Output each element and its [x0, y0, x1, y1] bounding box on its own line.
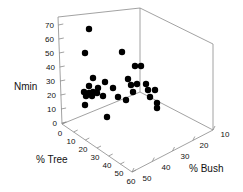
nmin-tick-60 [59, 38, 64, 39]
frame-edge-nmin-axis [58, 17, 62, 124]
tree-ticklabel-30: 30 [91, 153, 100, 162]
data-point [104, 114, 110, 120]
data-points-layer [81, 26, 160, 120]
data-point [86, 26, 92, 32]
tree-tick-30 [97, 146, 101, 148]
nmin-ticklabel-70: 70 [45, 21, 54, 30]
bush-ticklabel-10: 10 [221, 130, 230, 139]
data-point [147, 94, 153, 100]
data-point [82, 50, 88, 56]
plot-canvas: 70 60 50 40 30 20 10 0 Nmin 0 10 20 30 4… [0, 0, 243, 192]
frame-edge-back-top-left [58, 8, 140, 17]
nmin-tick-70 [58, 24, 63, 25]
nmin-axis-title: Nmin [14, 81, 37, 92]
nmin-tick-30 [60, 80, 65, 81]
nmin-axis-ticklabels: 70 60 50 40 30 20 10 0 [45, 21, 57, 128]
frame-edge-back-top-right [140, 8, 213, 44]
tree-ticklabel-0: 0 [58, 129, 63, 138]
nmin-ticklabel-30: 30 [46, 77, 55, 86]
nmin-ticklabel-0: 0 [53, 119, 58, 128]
tree-tick-50 [120, 162, 124, 164]
bush-ticklabel-40: 40 [162, 163, 171, 172]
data-point [90, 75, 96, 81]
data-point [138, 63, 144, 69]
scatter-plot-3d: 70 60 50 40 30 20 10 0 Nmin 0 10 20 30 4… [0, 0, 243, 192]
tree-tick-20 [85, 138, 89, 140]
tree-ticklabel-50: 50 [115, 169, 124, 178]
nmin-ticklabel-40: 40 [46, 63, 55, 72]
data-point [100, 93, 106, 99]
bush-axis-ticklabels: 50 40 30 20 10 [143, 130, 230, 183]
data-point [154, 105, 160, 111]
bush-ticklabel-50: 50 [143, 174, 152, 183]
data-point [102, 79, 108, 85]
nmin-tick-50 [59, 52, 64, 53]
tree-ticklabel-60: 60 [127, 177, 136, 186]
tree-axis-ticklabels: 0 10 20 30 40 50 60 [58, 129, 136, 186]
data-point [128, 82, 134, 88]
data-point [83, 93, 89, 99]
tree-ticklabel-10: 10 [67, 137, 76, 146]
data-point [145, 87, 151, 93]
data-point [152, 87, 158, 93]
nmin-ticklabel-50: 50 [45, 49, 54, 58]
tree-axis-ticks [62, 122, 136, 172]
data-point [123, 97, 129, 103]
data-point [132, 63, 138, 69]
tree-ticklabel-40: 40 [103, 161, 112, 170]
nmin-tick-40 [60, 66, 65, 67]
nmin-ticklabel-10: 10 [47, 105, 56, 114]
bush-ticklabel-30: 30 [181, 152, 190, 161]
nmin-tick-20 [61, 94, 66, 95]
data-point [130, 89, 136, 95]
data-point [82, 102, 88, 108]
nmin-axis-ticks [58, 24, 66, 123]
tree-tick-10 [74, 130, 78, 132]
nmin-ticklabel-60: 60 [45, 35, 54, 44]
tree-axis-title: % Tree [36, 154, 68, 165]
data-point [115, 94, 121, 100]
data-point [89, 93, 95, 99]
data-point [110, 85, 116, 91]
data-point [125, 76, 131, 82]
nmin-tick-10 [61, 108, 66, 109]
bush-axis-title: % Bush [189, 163, 223, 174]
nmin-ticklabel-20: 20 [47, 91, 56, 100]
bush-ticklabel-20: 20 [200, 141, 209, 150]
tree-ticklabel-20: 20 [79, 145, 88, 154]
data-point [119, 49, 125, 55]
data-point [86, 83, 92, 89]
data-point [143, 81, 149, 87]
data-point [134, 81, 140, 87]
tree-tick-40 [109, 154, 113, 156]
